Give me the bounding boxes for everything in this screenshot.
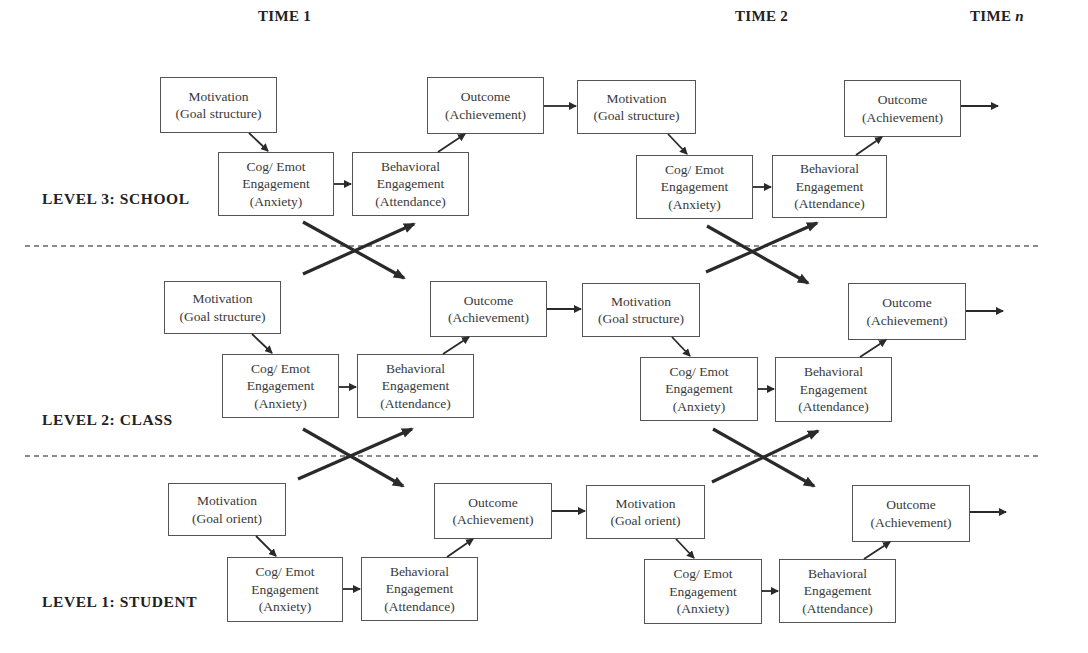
box-title-2: Engagement bbox=[796, 178, 863, 196]
box-subtitle: (Achievement) bbox=[862, 109, 943, 127]
box-title-2: Engagement bbox=[800, 381, 867, 399]
l2-t1-behavioral-box: Behavioral Engagement (Attendance) bbox=[357, 354, 474, 418]
box-title-2: Engagement bbox=[386, 580, 453, 598]
box-subtitle: (Attendance) bbox=[380, 395, 450, 413]
time-n-header: TIME n bbox=[970, 8, 1024, 25]
level-separators bbox=[25, 246, 1040, 456]
box-subtitle: (Achievement) bbox=[448, 309, 529, 327]
l3-t1-behavioral-box: Behavioral Engagement (Attendance) bbox=[352, 152, 469, 216]
box-title: Motivation bbox=[607, 90, 667, 108]
box-title: Cog/ Emot bbox=[251, 360, 310, 378]
box-title: Motivation bbox=[611, 293, 671, 311]
box-subtitle: (Goal structure) bbox=[598, 310, 684, 328]
box-subtitle: (Goal structure) bbox=[176, 105, 262, 123]
box-title-2: Engagement bbox=[377, 175, 444, 193]
box-title: Motivation bbox=[189, 88, 249, 106]
box-title-2: Engagement bbox=[251, 581, 318, 599]
box-title-2: Engagement bbox=[247, 377, 314, 395]
box-title: Cog/ Emot bbox=[665, 161, 724, 179]
l1-t2-behavioral-box: Behavioral Engagement (Attendance) bbox=[779, 559, 896, 623]
arrow-motivation-to-cog bbox=[676, 539, 694, 558]
box-title: Motivation bbox=[616, 495, 676, 513]
l2-t1-outcome-box: Outcome (Achievement) bbox=[430, 281, 547, 337]
box-title: Behavioral bbox=[386, 360, 445, 378]
l2-t2-behavioral-box: Behavioral Engagement (Attendance) bbox=[775, 357, 892, 422]
box-subtitle: (Anxiety) bbox=[677, 600, 729, 618]
box-subtitle: (Anxiety) bbox=[668, 196, 720, 214]
box-title-2: Engagement bbox=[661, 178, 728, 196]
l1-t2-outcome-box: Outcome (Achievement) bbox=[852, 485, 970, 542]
cross-arrow-up bbox=[706, 223, 817, 272]
arrow-behavioral-to-outcome bbox=[860, 340, 886, 357]
box-subtitle: (Achievement) bbox=[453, 511, 534, 529]
box-subtitle: (Goal orient) bbox=[610, 512, 680, 530]
box-subtitle: (Achievement) bbox=[871, 514, 952, 532]
arrow-motivation-to-cog bbox=[672, 337, 690, 356]
box-title: Outcome bbox=[461, 88, 511, 106]
l3-t1-motivation-box: Motivation (Goal structure) bbox=[160, 77, 277, 133]
cross-arrow-up bbox=[303, 224, 414, 274]
multilevel-engagement-diagram: TIME 1 TIME 2 TIME n LEVEL 3: SCHOOL LEV… bbox=[0, 0, 1088, 653]
box-subtitle: (Anxiety) bbox=[250, 193, 302, 211]
l3-t2-outcome-box: Outcome (Achievement) bbox=[844, 80, 961, 137]
box-subtitle: (Goal structure) bbox=[180, 308, 266, 326]
cross-arrow-down bbox=[707, 226, 808, 283]
arrow-behavioral-to-outcome bbox=[438, 134, 465, 152]
l3-t2-motivation-box: Motivation (Goal structure) bbox=[577, 80, 696, 134]
cross-arrow-down bbox=[303, 222, 404, 278]
l3-t2-cog-emot-box: Cog/ Emot Engagement (Anxiety) bbox=[636, 155, 753, 219]
box-subtitle: (Anxiety) bbox=[254, 395, 306, 413]
level-3-label: LEVEL 3: SCHOOL bbox=[42, 190, 190, 208]
box-subtitle: (Anxiety) bbox=[673, 398, 725, 416]
box-title: Behavioral bbox=[381, 158, 440, 176]
l3-t2-behavioral-box: Behavioral Engagement (Attendance) bbox=[772, 155, 887, 218]
box-title: Outcome bbox=[468, 494, 518, 512]
l2-t2-outcome-box: Outcome (Achievement) bbox=[848, 283, 966, 340]
time-1-header: TIME 1 bbox=[258, 8, 311, 25]
box-subtitle: (Achievement) bbox=[445, 106, 526, 124]
box-title-2: Engagement bbox=[665, 380, 732, 398]
arrow-motivation-to-cog bbox=[256, 536, 276, 556]
l1-t2-motivation-box: Motivation (Goal orient) bbox=[586, 485, 705, 539]
l2-t1-cog-emot-box: Cog/ Emot Engagement (Anxiety) bbox=[222, 354, 339, 418]
l1-t1-outcome-box: Outcome (Achievement) bbox=[434, 483, 552, 539]
box-subtitle: (Goal orient) bbox=[192, 510, 262, 528]
box-title: Behavioral bbox=[808, 565, 867, 583]
box-title: Behavioral bbox=[800, 160, 859, 178]
arrow-behavioral-to-outcome bbox=[864, 542, 890, 559]
box-title-2: Engagement bbox=[242, 175, 309, 193]
cross-arrow-down bbox=[713, 429, 814, 486]
box-subtitle: (Goal structure) bbox=[594, 107, 680, 125]
level-2-label: LEVEL 2: CLASS bbox=[42, 411, 173, 429]
box-subtitle: (Anxiety) bbox=[259, 598, 311, 616]
time-2-header: TIME 2 bbox=[735, 8, 788, 25]
box-title: Outcome bbox=[882, 294, 932, 312]
time-n-prefix: TIME bbox=[970, 8, 1015, 24]
l1-t2-cog-emot-box: Cog/ Emot Engagement (Anxiety) bbox=[644, 559, 762, 624]
level-1-label: LEVEL 1: STUDENT bbox=[42, 593, 197, 611]
box-subtitle: (Attendance) bbox=[798, 398, 868, 416]
box-title: Cog/ Emot bbox=[247, 158, 306, 176]
arrow-behavioral-to-outcome bbox=[856, 137, 882, 155]
arrow-behavioral-to-outcome bbox=[447, 539, 473, 557]
box-title: Outcome bbox=[886, 496, 936, 514]
arrow-motivation-to-cog bbox=[252, 334, 272, 353]
box-title: Behavioral bbox=[804, 363, 863, 381]
box-title: Outcome bbox=[464, 292, 514, 310]
cross-arrow-up bbox=[298, 429, 412, 479]
box-title-2: Engagement bbox=[382, 377, 449, 395]
box-title: Behavioral bbox=[390, 563, 449, 581]
box-subtitle: (Attendance) bbox=[802, 600, 872, 618]
arrow-motivation-to-cog bbox=[249, 133, 268, 151]
time-n-italic: n bbox=[1015, 8, 1024, 24]
l2-t1-motivation-box: Motivation (Goal structure) bbox=[164, 281, 281, 334]
arrow-behavioral-to-outcome bbox=[443, 337, 469, 354]
box-title: Outcome bbox=[878, 91, 928, 109]
arrow-motivation-to-cog bbox=[668, 134, 687, 154]
box-subtitle: (Achievement) bbox=[867, 312, 948, 330]
box-subtitle: (Attendance) bbox=[794, 195, 864, 213]
cross-arrow-down bbox=[303, 429, 403, 486]
l2-t2-cog-emot-box: Cog/ Emot Engagement (Anxiety) bbox=[640, 357, 758, 421]
l2-t2-motivation-box: Motivation (Goal structure) bbox=[582, 283, 700, 337]
box-title: Cog/ Emot bbox=[674, 565, 733, 583]
